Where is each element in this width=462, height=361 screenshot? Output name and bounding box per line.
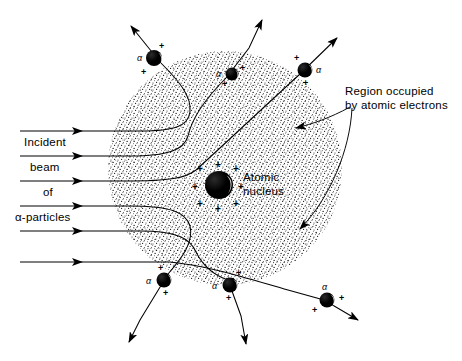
nucleus-label-line-1: Atomic bbox=[243, 171, 279, 183]
nucleus-charge-plus: + bbox=[215, 204, 221, 214]
alpha-charge-plus: + bbox=[240, 64, 245, 73]
nucleus-charge-plus: + bbox=[238, 182, 244, 192]
alpha-sphere bbox=[146, 50, 162, 66]
alpha-charge-plus: + bbox=[312, 306, 317, 315]
alpha-symbol: α bbox=[146, 276, 151, 286]
alpha-sphere bbox=[298, 63, 313, 78]
nucleus-charge-plus: + bbox=[215, 160, 221, 170]
alpha-charge-plus: + bbox=[236, 269, 241, 278]
alpha-symbol: α bbox=[316, 65, 321, 75]
beam-label-line-4: α-particles bbox=[15, 211, 71, 223]
alpha-symbol: α bbox=[212, 281, 217, 291]
alpha-charge-plus: + bbox=[222, 80, 227, 89]
atomic-nucleus bbox=[205, 171, 233, 199]
nucleus-charge-plus: + bbox=[233, 199, 239, 209]
region-annotation-line-2: by atomic electrons bbox=[345, 99, 448, 111]
region-annotation-line-1: Region occupied bbox=[345, 85, 434, 97]
alpha-charge-plus: + bbox=[158, 264, 163, 273]
nucleus-charge-plus: + bbox=[197, 164, 203, 174]
nucleus-charge-plus: + bbox=[233, 164, 239, 174]
diagram-canvas bbox=[0, 0, 462, 361]
alpha-charge-plus: + bbox=[159, 42, 164, 51]
alpha-charge-plus: + bbox=[163, 289, 168, 298]
nucleus-label-line-2: nucleus bbox=[243, 185, 284, 197]
alpha-charge-plus: + bbox=[141, 68, 146, 77]
alpha-charge-plus: + bbox=[339, 294, 344, 303]
rutherford-scattering-figure: Incident beam of α-particles Region occu… bbox=[0, 0, 462, 361]
beam-label-line-1: Incident bbox=[24, 136, 66, 148]
alpha-symbol: α bbox=[322, 282, 327, 292]
alpha-charge-plus: + bbox=[303, 79, 308, 88]
alpha-sphere bbox=[157, 273, 172, 288]
beam-label-line-3: of bbox=[43, 186, 53, 198]
alpha-charge-plus: + bbox=[226, 294, 231, 303]
alpha-sphere bbox=[226, 68, 239, 81]
beam-label-line-2: beam bbox=[30, 161, 60, 173]
alpha-sphere bbox=[223, 278, 238, 293]
nucleus-charge-plus: + bbox=[192, 182, 198, 192]
alpha-symbol: α bbox=[216, 69, 221, 79]
alpha-charge-plus: + bbox=[294, 54, 299, 63]
alpha-symbol: α bbox=[137, 53, 142, 63]
nucleus-charge-plus: + bbox=[197, 199, 203, 209]
alpha-sphere bbox=[320, 293, 335, 308]
